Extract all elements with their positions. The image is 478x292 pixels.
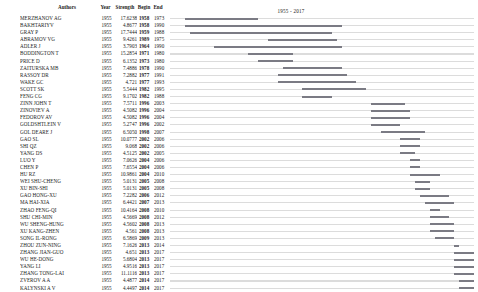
table-row[interactable]: ZHANG TONG-LAI195511.111620132017 — [0, 270, 478, 277]
row-strength: 5.0131 — [112, 178, 137, 185]
row-author: ZHOU ZUN-NING — [20, 242, 98, 249]
timeline-burst-bar — [430, 223, 455, 225]
table-row[interactable]: SONG IL-RONG19556.586920092013 — [0, 235, 478, 242]
table-row[interactable]: PRICE D19556.135219731980 — [0, 58, 478, 65]
row-strength: 9.1702 — [112, 93, 137, 100]
row-timeline — [170, 256, 474, 263]
row-begin: 1971 — [139, 50, 153, 57]
row-timeline — [170, 221, 474, 228]
table-row[interactable]: ZAITURSKA MB19557.488619781990 — [0, 65, 478, 72]
table-row[interactable]: ZINOVIEV A19554.508219962004 — [0, 107, 478, 114]
row-author: WU HE-DONG — [20, 256, 98, 263]
table-row[interactable]: CHEN P19557.655420042006 — [0, 164, 478, 171]
timeline-burst-bar — [459, 287, 474, 289]
table-row[interactable]: ZHANG JIAN-GUO19554.65120132017 — [0, 249, 478, 256]
row-author: SHU CHI-MIN — [20, 214, 98, 221]
row-begin: 2006 — [139, 192, 153, 199]
timeline-burst-bar — [410, 159, 420, 161]
timeline-burst-bar — [400, 138, 420, 140]
row-strength: 7.6554 — [112, 164, 137, 171]
row-strength: 6.5869 — [112, 235, 137, 242]
table-row[interactable]: ZINN JOHN T19557.571119962003 — [0, 100, 478, 107]
table-row[interactable]: GAO HONG-XU19557.228220062012 — [0, 192, 478, 199]
row-timeline — [170, 58, 474, 65]
row-timeline — [170, 50, 474, 57]
row-begin: 1996 — [139, 100, 153, 107]
timeline-baseline — [170, 153, 474, 154]
table-row[interactable]: LUO Y19557.062620042006 — [0, 157, 478, 164]
timeline-burst-bar — [302, 96, 331, 98]
table-row[interactable]: SHI QZ19559.06820022006 — [0, 143, 478, 150]
table-row[interactable]: RASSOY DR19557.288219771991 — [0, 72, 478, 79]
row-begin: 2013 — [139, 256, 153, 263]
row-begin: 1998 — [139, 129, 153, 136]
timeline-burst-bar — [410, 166, 420, 168]
row-end: 2005 — [154, 150, 168, 157]
row-timeline — [170, 43, 474, 50]
row-strength: 4.5082 — [112, 107, 137, 114]
table-row[interactable]: ADLER J19553.790319641990 — [0, 43, 478, 50]
table-row[interactable]: FENG CG19559.170219821988 — [0, 93, 478, 100]
row-author: SCOTT SK — [20, 86, 98, 93]
table-row[interactable]: XU BIN-SHI19555.013120052008 — [0, 185, 478, 192]
table-row[interactable]: WU SHENG-HUNG19554.560220082013 — [0, 221, 478, 228]
row-end: 2004 — [154, 114, 168, 121]
table-row[interactable]: ZHAO FENG-QI195510.416420082010 — [0, 207, 478, 214]
row-author: ZHANG JIAN-GUO — [20, 249, 98, 256]
table-row[interactable]: WEI SHU-CHENG19555.013120052008 — [0, 178, 478, 185]
row-strength: 15.2854 — [112, 50, 137, 57]
table-row[interactable]: HU RZ195510.986120042010 — [0, 171, 478, 178]
table-row[interactable]: ZHOU ZUN-NING19557.162620132014 — [0, 242, 478, 249]
table-row[interactable]: FEDOROV AV19554.508219962004 — [0, 114, 478, 121]
row-author: HU RZ — [20, 171, 98, 178]
row-author: GOLDSHTLEIN V — [20, 121, 98, 128]
timeline-baseline — [170, 167, 474, 168]
row-author: YANG DS — [20, 150, 98, 157]
row-timeline — [170, 15, 474, 22]
table-row[interactable]: KALYNSKI A V19554.449720142017 — [0, 285, 478, 292]
row-end: 1980 — [154, 58, 168, 65]
table-row[interactable]: YANG DS19554.512520022005 — [0, 150, 478, 157]
table-row[interactable]: SHU CHI-MIN19554.566920082012 — [0, 214, 478, 221]
timeline-baseline — [170, 252, 474, 253]
table-row[interactable]: XU KANG-ZHEN19554.56120082013 — [0, 228, 478, 235]
table-row[interactable]: WU HE-DONG19555.680420132017 — [0, 256, 478, 263]
row-begin: 1973 — [139, 58, 153, 65]
table-row[interactable]: MA HAI-XIA19556.442120072013 — [0, 199, 478, 206]
table-row[interactable]: GOLDSHTLEIN V19555.274719962002 — [0, 121, 478, 128]
table-row[interactable]: ABRAMOV VG19559.426119891975 — [0, 36, 478, 43]
timeline-burst-bar — [410, 174, 439, 176]
row-strength: 9.4261 — [112, 36, 137, 43]
timeline-burst-bar — [454, 252, 474, 254]
table-row[interactable]: YANG LI19554.951620132017 — [0, 263, 478, 270]
table-row[interactable]: BODDINGTON T195515.285419711980 — [0, 50, 478, 57]
table-row[interactable]: MERZHANOV AG195517.623819581973 — [0, 15, 478, 22]
row-timeline — [170, 285, 474, 292]
row-end: 1975 — [154, 36, 168, 43]
timeline-burst-bar — [415, 188, 430, 190]
row-begin: 2013 — [139, 270, 153, 277]
row-end: 2013 — [154, 228, 168, 235]
timeline-baseline — [170, 238, 474, 239]
row-end: 1995 — [154, 86, 168, 93]
row-author: ZHANG TONG-LAI — [20, 270, 98, 277]
row-end: 2008 — [154, 185, 168, 192]
row-strength: 4.5602 — [112, 221, 137, 228]
table-row[interactable]: BAKHTARIYV19554.867719581990 — [0, 22, 478, 29]
row-author: MERZHANOV AG — [20, 15, 98, 22]
table-row[interactable]: ZVEROV A A19554.487720142017 — [0, 277, 478, 284]
row-author: XU KANG-ZHEN — [20, 228, 98, 235]
table-row[interactable]: SCOTT SK19555.544419821995 — [0, 86, 478, 93]
row-strength: 7.5711 — [112, 100, 137, 107]
row-begin: 1958 — [139, 22, 153, 29]
row-end: 2013 — [154, 235, 168, 242]
table-row[interactable]: GRAY P195517.744419591988 — [0, 29, 478, 36]
table-row[interactable]: GOL DEARE J19556.505019982007 — [0, 129, 478, 136]
table-row[interactable]: WAKE GC19554.72119771993 — [0, 79, 478, 86]
row-end: 2017 — [154, 285, 168, 292]
row-begin: 2013 — [139, 242, 153, 249]
table-row[interactable]: GAO SL195510.077720022006 — [0, 136, 478, 143]
row-author: KALYNSKI A V — [20, 285, 98, 292]
row-author: WEI SHU-CHENG — [20, 178, 98, 185]
row-timeline — [170, 143, 474, 150]
